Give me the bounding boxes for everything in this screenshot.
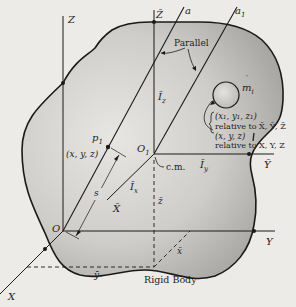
zbar-dim-label: z̄	[157, 196, 163, 206]
s-label: s	[94, 188, 99, 198]
x-axis-label: X	[7, 291, 16, 302]
ybar-axis-label: Ȳ	[264, 159, 272, 170]
z-axis-label: Z	[67, 14, 76, 25]
rigid-body-outline	[22, 22, 283, 278]
xbar-dim-label: x̄	[177, 246, 182, 256]
coords2-text: (x, y, z)	[215, 131, 245, 141]
axis-a-label: a	[185, 5, 191, 16]
p1-coords: (x, y, z)	[66, 149, 99, 159]
origin-label: O	[52, 223, 60, 234]
y-axis-label: Y	[266, 236, 274, 247]
xbar-axis-label: X̄	[112, 203, 121, 214]
mass-particle	[213, 82, 239, 108]
x-intersection-dot	[43, 247, 47, 251]
cm-label: c.m.	[166, 162, 185, 172]
zbar-intersection-dot	[152, 20, 156, 24]
axis-a1-label: a1	[235, 5, 245, 19]
z-intersection-dot	[61, 81, 65, 85]
mass-prime: ′	[246, 73, 248, 82]
diagram-canvas: Rigid Body Z Y X O Z̄ Ȳ X̄ O1 c.m. Īz Īy…	[0, 0, 296, 307]
ybar-dim-label: ȳ	[93, 270, 100, 280]
parallel-label: Parallel	[174, 38, 209, 48]
y-intersection-dot	[252, 229, 256, 233]
x-axis	[0, 231, 63, 294]
coords1-text: (x₁, y₁, z₁)	[215, 111, 257, 121]
ybar-intersection-dot	[247, 152, 251, 156]
rigid-body-label: Rigid Body	[144, 274, 197, 285]
zbar-axis-label: Z̄	[155, 9, 164, 20]
rel1-text: relative to X̄, Ȳ, Z̄	[215, 122, 286, 131]
rigid-body-diagram: Rigid Body Z Y X O Z̄ Ȳ X̄ O1 c.m. Īz Īy…	[0, 0, 296, 307]
point-p1	[106, 145, 110, 149]
rel2-text: relative to X, Y, Z	[215, 141, 285, 150]
